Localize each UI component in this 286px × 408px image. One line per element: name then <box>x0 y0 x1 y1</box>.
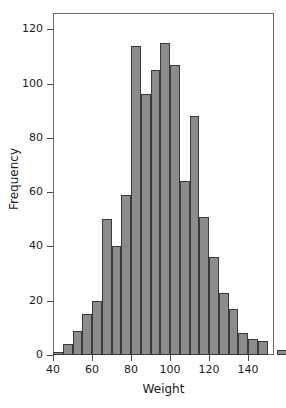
histogram-bar <box>112 246 122 355</box>
histogram-bar <box>190 116 200 355</box>
x-axis-tick <box>170 355 171 361</box>
histogram-bar <box>102 219 112 355</box>
x-axis-tick-label: 140 <box>228 364 268 376</box>
y-axis-tick-label: 0 <box>3 349 43 360</box>
histogram-bar <box>73 331 83 355</box>
x-axis-tick-label: 60 <box>72 364 112 376</box>
x-axis-tick <box>209 355 210 361</box>
x-axis-tick-label: 40 <box>33 364 73 376</box>
histogram-bar <box>238 333 248 355</box>
histogram-bars <box>53 13 274 355</box>
histogram-bar <box>151 70 161 355</box>
histogram-bar <box>229 309 239 355</box>
histogram-bar <box>160 43 170 355</box>
histogram-bar <box>258 341 268 355</box>
histogram-bar <box>219 293 229 355</box>
histogram-bar <box>63 344 73 355</box>
x-axis-tick <box>131 355 132 361</box>
histogram-bar <box>131 46 141 355</box>
x-axis-tick-label: 100 <box>150 364 190 376</box>
y-axis-title: Frequency <box>7 119 21 239</box>
histogram-bar <box>121 195 131 355</box>
x-axis-tick <box>92 355 93 361</box>
histogram-bar <box>209 257 219 355</box>
x-axis-tick-label: 80 <box>111 364 151 376</box>
y-axis-tick <box>47 246 53 247</box>
y-axis-tick <box>47 29 53 30</box>
x-axis-tick <box>53 355 54 361</box>
x-axis-tick <box>248 355 249 361</box>
histogram-bar <box>92 301 102 355</box>
y-axis-tick-label: 120 <box>3 23 43 34</box>
y-axis-tick <box>47 138 53 139</box>
histogram-bar <box>180 181 190 355</box>
histogram-bar <box>53 352 63 355</box>
histogram-bar <box>82 314 92 355</box>
y-axis-tick <box>47 192 53 193</box>
y-axis-tick-label: 40 <box>3 240 43 251</box>
histogram-bar <box>248 339 258 355</box>
y-axis-tick-label: 20 <box>3 295 43 306</box>
histogram-bar <box>141 94 151 355</box>
histogram-bar <box>277 350 286 355</box>
histogram-bar <box>199 217 209 355</box>
y-axis-tick-label: 100 <box>3 78 43 89</box>
histogram-figure: 020406080100120 406080100120140 Frequenc… <box>0 0 286 408</box>
y-axis-tick <box>47 301 53 302</box>
x-axis-tick-label: 120 <box>189 364 229 376</box>
histogram-bar <box>170 65 180 355</box>
y-axis-tick <box>47 84 53 85</box>
x-axis-title: Weight <box>53 382 274 396</box>
